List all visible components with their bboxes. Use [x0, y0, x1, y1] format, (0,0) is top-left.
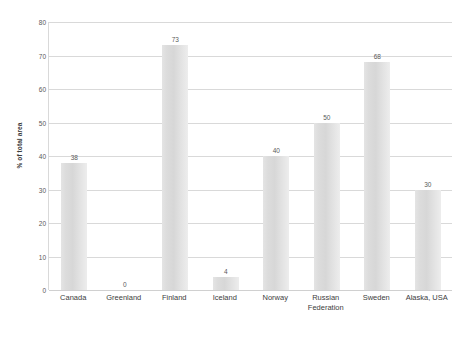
gridline [49, 290, 452, 291]
y-axis-tick-labels: 01020304050607080 [26, 22, 46, 290]
y-axis-tick-label: 10 [39, 253, 46, 260]
x-axis-category-label: Sweden [351, 293, 402, 303]
x-axis-category-label: Norway [250, 293, 301, 303]
bar-slot: 38 [49, 22, 100, 290]
bar[interactable] [162, 45, 188, 290]
bar-chart: % of total area 01020304050607080 380734… [0, 0, 464, 337]
bar-slot: 40 [251, 22, 302, 290]
bar-slot: 30 [403, 22, 454, 290]
bar-value-label: 30 [424, 181, 431, 188]
bar-slot: 50 [302, 22, 353, 290]
x-axis-category-label: Greenland [99, 293, 150, 303]
y-axis-tick-label: 0 [42, 287, 46, 294]
x-axis-category-label: Iceland [200, 293, 251, 303]
x-axis-category-label: Russian Federation [301, 293, 352, 312]
bar-value-label: 38 [71, 154, 78, 161]
bar[interactable] [61, 163, 87, 290]
bar-value-label: 73 [172, 36, 179, 43]
bar-slot: 73 [150, 22, 201, 290]
bar-value-label: 50 [323, 114, 330, 121]
bar[interactable] [263, 156, 289, 290]
x-axis-category-labels: CanadaGreenlandFinlandIcelandNorwayRussi… [48, 293, 452, 333]
y-axis-tick-label: 30 [39, 186, 46, 193]
bar-value-label: 40 [273, 147, 280, 154]
bar-slot: 68 [352, 22, 403, 290]
x-axis-category-label: Canada [48, 293, 99, 303]
y-axis-tick-label: 20 [39, 220, 46, 227]
y-axis-tick-label: 70 [39, 52, 46, 59]
y-axis-tick-label: 80 [39, 19, 46, 26]
x-axis-category-label: Finland [149, 293, 200, 303]
plot-area: 38073440506830 [48, 22, 452, 290]
bar-value-label: 68 [374, 53, 381, 60]
bar-value-label: 4 [224, 268, 228, 275]
y-axis-tick-label: 60 [39, 86, 46, 93]
x-axis-category-label: Alaska, USA [402, 293, 453, 303]
y-axis-tick-label: 50 [39, 119, 46, 126]
bar-slot: 0 [100, 22, 151, 290]
bar[interactable] [364, 62, 390, 290]
bar[interactable] [213, 277, 239, 290]
y-axis-title-text: % of total area [17, 122, 24, 168]
bar-series: 38073440506830 [49, 22, 452, 290]
bar[interactable] [314, 123, 340, 291]
y-axis-tick-label: 40 [39, 153, 46, 160]
bar[interactable] [415, 190, 441, 291]
bar-value-label: 0 [123, 281, 127, 288]
bar-slot: 4 [201, 22, 252, 290]
